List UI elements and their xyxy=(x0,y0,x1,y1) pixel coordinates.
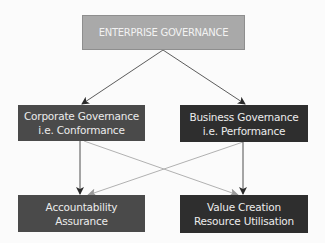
edge-top-to-corporate xyxy=(82,50,163,104)
node-label-line-1: Accountability xyxy=(46,200,118,214)
edge-corporate-to-value xyxy=(84,141,238,195)
node-label-line-1: Value Creation xyxy=(207,200,281,214)
node-label-line-1: Corporate Governance xyxy=(24,109,139,123)
node-label-line-1: Business Governance xyxy=(189,110,298,124)
node-value-creation: Value Creation Resource Utilisation xyxy=(180,195,308,233)
node-enterprise-governance: ENTERPRISE GOVERNANCE xyxy=(82,15,245,50)
node-label: ENTERPRISE GOVERNANCE xyxy=(99,26,228,40)
node-label-line-2: i.e. Performance xyxy=(203,124,286,138)
node-accountability-assurance: Accountability Assurance xyxy=(18,195,145,232)
node-label-line-2: i.e. Conformance xyxy=(38,123,124,137)
node-corporate-governance: Corporate Governance i.e. Conformance xyxy=(18,105,145,141)
node-business-governance: Business Governance i.e. Performance xyxy=(180,105,308,142)
node-label-line-2: Assurance xyxy=(55,214,108,228)
node-label-line-2: Resource Utilisation xyxy=(194,214,294,228)
edge-top-to-business xyxy=(163,50,245,104)
edge-business-to-accountability xyxy=(88,142,243,195)
